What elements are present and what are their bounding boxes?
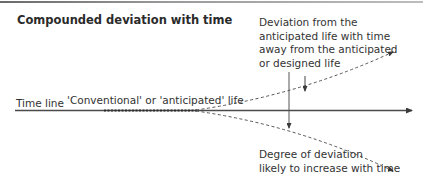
deviation-line-1: Deviation from the [259, 16, 398, 30]
deviation-annotation: Deviation from the anticipated life with… [259, 16, 398, 70]
degree-annotation: Degree of deviation likely to increase w… [259, 148, 400, 175]
degree-line-1: Degree of deviation [259, 148, 400, 162]
deviation-line-2: anticipated life with time [259, 30, 398, 44]
deviation-line-4: or designed life [259, 57, 398, 71]
conventional-life-label: 'Conventional' or 'anticipated' life [67, 94, 244, 108]
timeline-label: Time line [16, 97, 64, 111]
degree-line-2: likely to increase with time [259, 162, 400, 176]
deviation-line-3: away from the anticipated [259, 43, 398, 57]
